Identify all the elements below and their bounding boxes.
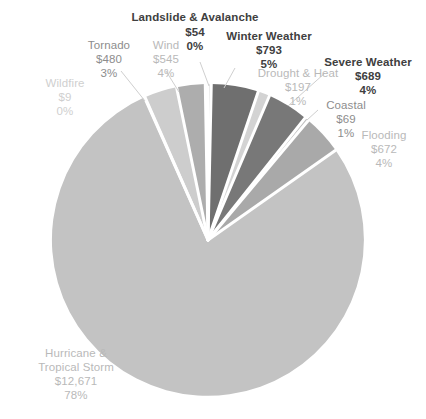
label-name: Tornado [76, 38, 142, 52]
label-name: Coastal [310, 98, 382, 112]
label-percent: 3% [76, 66, 142, 80]
label-name-line1: Hurricane & [12, 346, 140, 360]
label-name: Winter Weather [213, 29, 325, 43]
slice-label-winter-weather: Winter Weather $793 5% [213, 29, 325, 71]
slice-label-wildfire: Wildfire $9 0% [34, 76, 96, 118]
label-name: Severe Weather [312, 55, 424, 69]
slice-label-hurricane-tropical-storm: Hurricane & Tropical Storm $12,671 78% [12, 346, 140, 402]
label-name: Landslide & Avalanche [122, 10, 268, 24]
slice-label-tornado: Tornado $480 3% [76, 38, 142, 80]
label-value: $12,671 [12, 374, 140, 388]
label-value: $689 [312, 69, 424, 83]
label-percent: 0% [34, 104, 96, 118]
label-value: $9 [34, 90, 96, 104]
leader-line-landslide [200, 62, 209, 86]
label-value: $672 [348, 142, 420, 156]
label-value: $545 [142, 52, 190, 66]
label-percent: 4% [142, 66, 190, 80]
label-percent: 78% [12, 388, 140, 402]
label-name: Flooding [348, 128, 420, 142]
label-name: Wind [142, 38, 190, 52]
slice-label-severe-weather: Severe Weather $689 4% [312, 55, 424, 97]
pie-chart: Landslide & Avalanche $54 0% Winter Weat… [0, 0, 426, 419]
label-percent: 4% [312, 83, 424, 97]
slice-label-flooding: Flooding $672 4% [348, 128, 420, 170]
slice-label-wind: Wind $545 4% [142, 38, 190, 80]
label-value: $793 [213, 43, 325, 57]
label-percent: 4% [348, 156, 420, 170]
label-value: $69 [310, 112, 382, 126]
label-name-line2: Tropical Storm [12, 360, 140, 374]
label-value: $480 [76, 52, 142, 66]
